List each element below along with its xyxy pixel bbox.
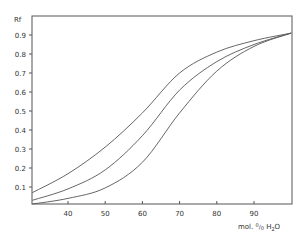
y-tick-label: 0.4 <box>15 127 27 135</box>
y-tick-label: 0.3 <box>15 146 26 154</box>
data-curves <box>32 33 291 204</box>
x-axis-title: mol. 0/0 H2O <box>238 222 281 232</box>
curve-lower <box>32 33 291 204</box>
plot-frame <box>32 16 292 204</box>
y-tick-label: 0.1 <box>15 184 26 192</box>
rf-chart: 0.10.20.30.40.50.60.70.80.9 405060708090… <box>0 0 307 246</box>
y-tick-label: 0.7 <box>15 70 26 78</box>
x-tick-label: 90 <box>250 210 259 218</box>
y-axis-title: Rf <box>14 16 22 24</box>
y-tick-label: 0.9 <box>15 32 26 40</box>
y-axis-ticks: 0.10.20.30.40.50.60.70.80.9 <box>15 32 32 192</box>
y-tick-label: 0.2 <box>15 165 26 173</box>
y-tick-label: 0.5 <box>15 108 26 116</box>
x-tick-label: 80 <box>212 210 221 218</box>
y-tick-label: 0.8 <box>15 51 26 59</box>
curve-upper <box>32 33 291 193</box>
x-tick-label: 50 <box>101 210 110 218</box>
x-tick-label: 60 <box>138 210 147 218</box>
x-tick-label: 70 <box>175 210 184 218</box>
y-tick-label: 0.6 <box>15 89 27 97</box>
x-tick-label: 40 <box>64 210 73 218</box>
curve-middle <box>32 33 291 200</box>
